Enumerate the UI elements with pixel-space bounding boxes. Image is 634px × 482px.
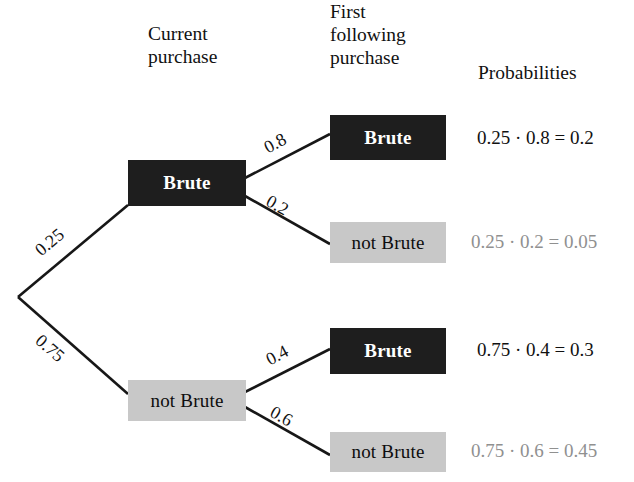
probability-row-brute-not-brute: 0.25 · 0.2 = 0.05 (471, 231, 597, 253)
node-brute-level2-top[interactable]: Brute (330, 115, 446, 160)
node-not-brute-level1[interactable]: not Brute (128, 380, 246, 421)
branch-brute-to-brute (245, 134, 330, 178)
node-label: Brute (364, 340, 411, 362)
node-label: Brute (364, 127, 411, 149)
node-label: not Brute (150, 390, 223, 412)
probability-row-not-brute-brute: 0.75 · 0.4 = 0.3 (477, 339, 594, 361)
header-current-purchase: Current purchase (148, 22, 217, 68)
header-probabilities: Probabilities (478, 61, 577, 84)
probability-tree-diagram: Current purchase First following purchas… (0, 0, 634, 482)
probability-row-not-brute-not-brute: 0.75 · 0.6 = 0.45 (471, 440, 597, 462)
node-not-brute-level2-bottom[interactable]: not Brute (330, 432, 446, 472)
node-label: not Brute (351, 232, 424, 254)
node-label: not Brute (351, 441, 424, 463)
probability-row-brute-brute: 0.25 · 0.8 = 0.2 (477, 127, 594, 149)
node-label: Brute (163, 172, 210, 194)
node-brute-level2-bottom[interactable]: Brute (330, 328, 446, 374)
branch-root-to-brute (18, 205, 128, 297)
node-brute-level1[interactable]: Brute (128, 160, 246, 206)
header-first-following-purchase: First following purchase (330, 0, 406, 69)
node-not-brute-level2-top[interactable]: not Brute (330, 222, 446, 263)
